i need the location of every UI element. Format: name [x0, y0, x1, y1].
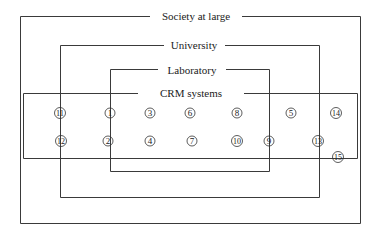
svg-text:5: 5 — [289, 108, 294, 118]
svg-text:7: 7 — [190, 136, 195, 146]
svg-text:11: 11 — [56, 108, 64, 118]
svg-text:12: 12 — [57, 136, 65, 146]
laboratory-label: Laboratory — [168, 64, 217, 76]
node-13: 13 — [313, 136, 324, 147]
university-label: University — [171, 39, 218, 51]
crm-box — [24, 94, 358, 159]
node-10: 10 — [232, 136, 243, 147]
svg-text:14: 14 — [332, 108, 340, 118]
svg-text:9: 9 — [267, 136, 272, 146]
node-12: 12 — [56, 136, 67, 147]
box-labels: Society at large University Laboratory C… — [160, 10, 230, 99]
nested-context-diagram: Society at large University Laboratory C… — [0, 0, 380, 234]
node-2: 2 — [103, 136, 113, 146]
svg-text:8: 8 — [235, 108, 240, 118]
node-1: 1 — [105, 108, 115, 118]
node-6: 6 — [185, 108, 195, 118]
svg-text:2: 2 — [106, 136, 111, 146]
node-9: 9 — [264, 136, 274, 146]
svg-text:4: 4 — [148, 136, 153, 146]
node-5: 5 — [286, 108, 296, 118]
node-3: 3 — [145, 108, 155, 118]
node-7: 7 — [187, 136, 197, 146]
numbered-nodes: 111368514122471091315 — [55, 108, 344, 163]
svg-text:6: 6 — [188, 108, 193, 118]
society-label: Society at large — [162, 10, 230, 22]
laboratory-box — [111, 70, 270, 172]
node-15: 15 — [333, 152, 344, 163]
svg-text:10: 10 — [233, 136, 241, 146]
node-8: 8 — [232, 108, 242, 118]
node-4: 4 — [145, 136, 155, 146]
node-14: 14 — [331, 108, 342, 119]
svg-text:3: 3 — [148, 108, 153, 118]
svg-text:15: 15 — [334, 152, 342, 162]
node-11: 11 — [55, 108, 66, 119]
crm-label: CRM systems — [160, 87, 222, 99]
svg-text:1: 1 — [108, 108, 113, 118]
svg-text:13: 13 — [314, 136, 322, 146]
